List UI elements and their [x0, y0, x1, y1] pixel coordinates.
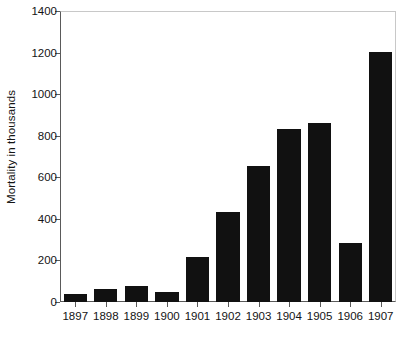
bar: [155, 292, 178, 302]
y-tick-label: 800: [38, 130, 57, 142]
bar: [339, 243, 362, 302]
y-tick-label: 1000: [31, 88, 57, 100]
x-tick-mark: [320, 302, 321, 307]
x-tick-mark: [106, 302, 107, 307]
y-tick-label: 1200: [31, 47, 57, 59]
x-tick-label: 1899: [124, 310, 150, 322]
y-tick-label: 0: [51, 296, 57, 308]
y-tick-label: 200: [38, 254, 57, 266]
x-tick-mark: [197, 302, 198, 307]
x-tick-label: 1903: [246, 310, 272, 322]
y-tick-label: 1400: [31, 5, 57, 17]
x-tick-label: 1902: [215, 310, 241, 322]
x-tick-mark: [381, 302, 382, 307]
x-tick-mark: [289, 302, 290, 307]
bar: [369, 52, 392, 302]
x-tick-label: 1907: [368, 310, 394, 322]
x-tick-mark: [167, 302, 168, 307]
x-tick-label: 1904: [276, 310, 302, 322]
bar: [64, 294, 87, 302]
bar: [247, 166, 270, 302]
x-tick-mark: [259, 302, 260, 307]
x-tick-label: 1905: [307, 310, 333, 322]
x-tick-label: 1906: [337, 310, 363, 322]
x-tick-label: 1898: [93, 310, 119, 322]
x-tick-mark: [136, 302, 137, 307]
x-tick-mark: [228, 302, 229, 307]
x-tick-mark: [75, 302, 76, 307]
bar: [125, 286, 148, 302]
bar: [216, 212, 239, 302]
y-axis-title-text: Mortality in thousands: [5, 90, 17, 204]
y-tick-label: 400: [38, 213, 57, 225]
bar: [186, 257, 209, 302]
bar: [277, 129, 300, 302]
bar-chart: Mortality in thousands 02004006008001000…: [0, 0, 411, 338]
y-tick-label: 600: [38, 171, 57, 183]
x-tick-mark: [350, 302, 351, 307]
bar: [94, 289, 117, 302]
bars-container: [60, 11, 396, 302]
bar: [308, 123, 331, 302]
x-tick-label: 1897: [62, 310, 88, 322]
x-tick-label: 1901: [185, 310, 211, 322]
x-tick-label: 1900: [154, 310, 180, 322]
y-axis-title: Mortality in thousands: [0, 0, 22, 338]
